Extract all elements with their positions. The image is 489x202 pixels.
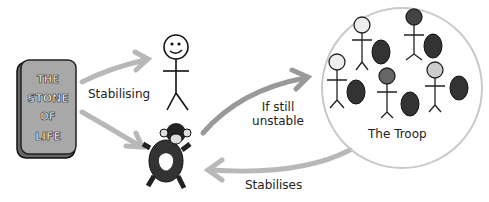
stick-human [163,35,189,110]
label-stabilises: Stabilises [245,178,302,192]
label-if-still-line1: If still [248,100,308,114]
label-the-troop: The Troop [368,127,427,141]
label-stabilising: Stabilising [88,87,150,101]
arrows [82,52,350,180]
svg-text:THE: THE [37,74,59,85]
svg-text:STONE: STONE [27,92,69,105]
troop-circle [322,8,482,168]
arrow-stone-to-monkey [82,112,140,146]
diagram-canvas: THE STONE OF LIFE [0,0,489,202]
label-if-still-line2: unstable [248,114,308,128]
arrow-troop-to-monkey [210,150,350,171]
stone-of-life-tablet: THE STONE OF LIFE [17,60,76,158]
label-if-still-unstable: If still unstable [248,100,308,128]
svg-text:OF: OF [40,111,55,122]
svg-text:LIFE: LIFE [35,130,61,143]
monkey [143,123,191,188]
